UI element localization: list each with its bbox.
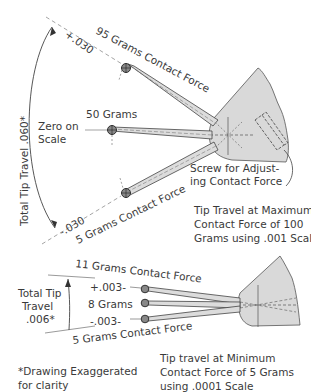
plus-030-mark: +.030: [63, 28, 96, 56]
footnote-line1: *Drawing Exaggerated: [18, 364, 137, 378]
tip-ball-11g: [141, 285, 149, 293]
minus-003-mark: -.003-: [90, 315, 121, 327]
screw-label-line2: ing Contact Force: [190, 175, 282, 187]
tip-ball-lower: [121, 188, 131, 198]
indicator-body: [209, 68, 288, 162]
indicator-body-small: [238, 256, 300, 326]
top-caption-line2: Contact Force of 100: [194, 217, 311, 231]
zero-on-scale-line1: Zero on: [38, 120, 79, 132]
arm-center: [112, 127, 212, 139]
bottom-diagram: 11 Grams Contact Force +.003- 8 Grams -.…: [17, 256, 300, 346]
center-force-label: 50 Grams: [86, 108, 137, 120]
tip-ball-upper: [121, 63, 131, 73]
center-force-label-small: 8 Grams: [88, 298, 133, 310]
top-caption: Tip Travel at Maximum Contact Force of 1…: [194, 203, 311, 245]
total-tip-label-line3: .006*: [26, 313, 55, 325]
footnote: *Drawing Exaggerated for clarity: [18, 364, 137, 392]
bottom-caption-line1: Tip travel at Minimum: [160, 351, 294, 365]
plus-003-mark: +.003-: [90, 281, 126, 293]
total-tip-travel-label: Total Tip Travel .060*: [18, 116, 30, 227]
tip-ball-5g: [141, 315, 149, 323]
top-caption-line3: Grams using .001 Scale: [194, 231, 311, 245]
tip-ball-8g: [141, 299, 149, 307]
total-tip-label-line2: Travel: [21, 300, 53, 312]
tip-ball-center: [107, 125, 117, 135]
bottom-caption-line3: using .0001 Scale: [160, 379, 294, 392]
upper-force-label: 95 Grams Contact Force: [94, 24, 212, 94]
contact-force-diagram: Total Tip Travel .060* +.030 95 Grams Co…: [0, 0, 311, 392]
top-caption-line1: Tip Travel at Maximum: [194, 203, 311, 217]
footnote-line2: for clarity: [18, 378, 137, 392]
screw-label-line1: Screw for Adjust-: [190, 162, 280, 174]
zero-on-scale-line2: Scale: [38, 133, 66, 145]
bottom-caption: Tip travel at Minimum Contact Force of 5…: [160, 351, 294, 392]
total-tip-label-line1: Total Tip: [17, 287, 62, 299]
bottom-caption-line2: Contact Force of 5 Grams: [160, 365, 294, 379]
